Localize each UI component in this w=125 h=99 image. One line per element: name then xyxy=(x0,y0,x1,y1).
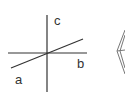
b-axis-label: b xyxy=(77,56,84,71)
axes-diagram: c b a xyxy=(0,0,125,99)
a-axis-label: a xyxy=(15,72,23,87)
c-axis-label: c xyxy=(54,13,61,28)
crystal-outline-icon xyxy=(117,30,125,74)
